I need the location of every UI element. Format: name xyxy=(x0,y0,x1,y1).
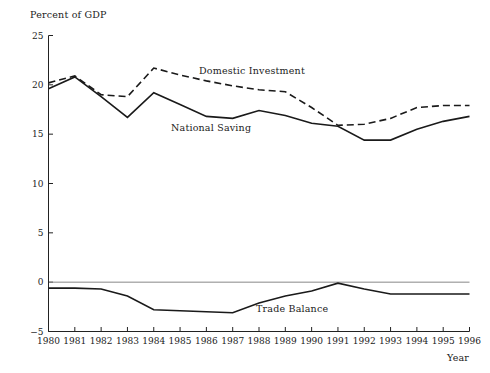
x-tick-label: 1992 xyxy=(353,336,376,346)
x-tick-label: 1988 xyxy=(248,336,271,346)
x-tick-label: 1982 xyxy=(90,336,113,346)
x-tick-label: 1994 xyxy=(405,336,428,346)
chart-page: Percent of GDP Year Domestic Investment … xyxy=(0,0,490,373)
x-tick-label: 1993 xyxy=(379,336,402,346)
x-tick-label: 1991 xyxy=(326,336,349,346)
series-line-trade-balance xyxy=(49,283,470,313)
y-axis-ticks: −50510152025 xyxy=(30,31,53,337)
x-tick-label: 1981 xyxy=(63,336,86,346)
y-tick-label: 25 xyxy=(32,31,44,41)
x-tick-label: 1989 xyxy=(274,336,297,346)
x-tick-label: 1984 xyxy=(142,336,165,346)
chart-canvas: −50510152025 198019811982198319841985198… xyxy=(0,0,490,373)
x-tick-label: 1986 xyxy=(195,336,218,346)
y-tick-label: 10 xyxy=(32,179,44,189)
y-tick-label: 0 xyxy=(38,277,44,287)
x-tick-label: 1987 xyxy=(221,336,244,346)
y-tick-label: 20 xyxy=(32,80,44,90)
axis-lines xyxy=(49,36,470,332)
y-tick-label: 15 xyxy=(32,129,44,139)
x-tick-label: 1985 xyxy=(169,336,192,346)
x-axis-ticks: 1980198119821983198419851986198719881989… xyxy=(37,327,481,346)
x-tick-label: 1983 xyxy=(116,336,139,346)
x-tick-label: 1996 xyxy=(458,336,481,346)
x-tick-label: 1980 xyxy=(37,336,60,346)
x-tick-label: 1995 xyxy=(432,336,455,346)
y-tick-label: 5 xyxy=(38,228,44,238)
x-tick-label: 1990 xyxy=(300,336,323,346)
series-line-national-saving xyxy=(49,77,470,140)
series-line-domestic-investment xyxy=(49,68,470,125)
